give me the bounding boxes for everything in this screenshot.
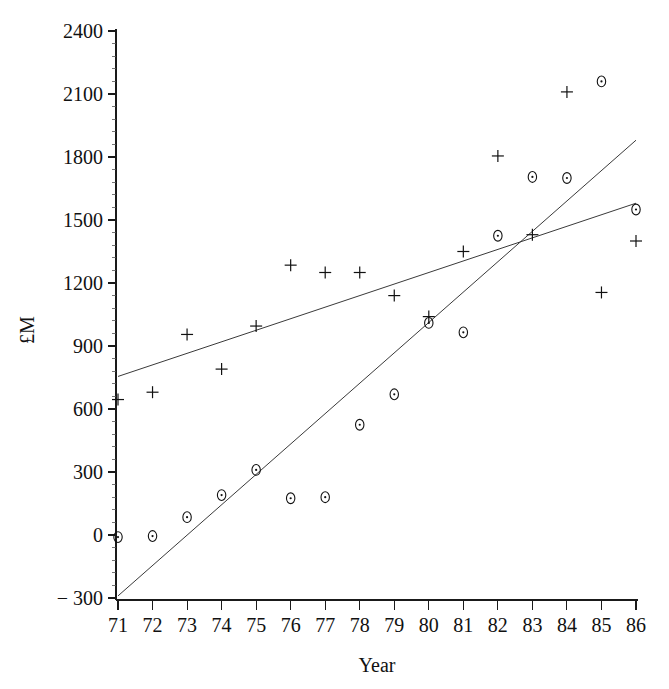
- marker-circle: [217, 490, 225, 501]
- y-tick-label: 900: [73, 335, 103, 357]
- chart-container: − 300030060090012001500180021002400 7172…: [0, 0, 669, 689]
- y-tick-label: 1200: [63, 272, 103, 294]
- marker-plus: [354, 267, 366, 279]
- marker-circle: [563, 173, 571, 184]
- marker-circle: [252, 465, 260, 476]
- marker-plus: [630, 235, 642, 247]
- marker-plus: [181, 328, 193, 340]
- y-axis-title: £M: [16, 316, 38, 344]
- marker-plus: [112, 394, 124, 406]
- x-tick-label: 77: [315, 614, 335, 636]
- x-axis-title: Year: [359, 654, 396, 676]
- circle-series-fit: [118, 140, 636, 596]
- x-tick-label: 85: [591, 614, 611, 636]
- marker-circle: [286, 493, 294, 504]
- marker-plus: [457, 246, 469, 258]
- marker-plus: [388, 290, 400, 302]
- y-tick-label: 0: [93, 524, 103, 546]
- marker-plus: [319, 267, 331, 279]
- x-tick-label: 76: [281, 614, 301, 636]
- x-tick-label: 86: [626, 614, 646, 636]
- x-tick-label: 78: [350, 614, 370, 636]
- regression-lines: [118, 140, 636, 596]
- marker-plus: [595, 286, 607, 298]
- marker-circle: [321, 492, 329, 503]
- marker-plus: [250, 320, 262, 332]
- x-tick-label: 84: [557, 614, 577, 636]
- marker-plus: [147, 386, 159, 398]
- scatter-plot: − 300030060090012001500180021002400 7172…: [0, 0, 669, 689]
- y-tick-label: 1800: [63, 146, 103, 168]
- marker-plus: [285, 259, 297, 271]
- marker-circle: [528, 172, 536, 183]
- y-axis: − 300030060090012001500180021002400: [57, 20, 116, 609]
- marker-circle: [632, 204, 640, 215]
- marker-circle: [148, 531, 156, 542]
- marker-plus: [492, 150, 504, 162]
- marker-circle: [597, 76, 605, 87]
- x-tick-label: 80: [419, 614, 439, 636]
- x-axis: 71727374757677787980818283848586: [108, 600, 646, 636]
- marker-circle: [114, 532, 122, 543]
- x-tick-label: 75: [246, 614, 266, 636]
- y-tick-label: 2400: [63, 20, 103, 42]
- x-tick-label: 73: [177, 614, 197, 636]
- x-tick-label: 82: [488, 614, 508, 636]
- y-tick-label: 600: [73, 398, 103, 420]
- x-tick-label: 81: [453, 614, 473, 636]
- marker-plus: [561, 86, 573, 98]
- marker-plus: [216, 363, 228, 375]
- y-tick-label: 2100: [63, 83, 103, 105]
- marker-circle: [356, 419, 364, 430]
- marker-circle: [459, 327, 467, 338]
- plus-series-fit: [118, 203, 636, 376]
- data-points: [112, 76, 642, 542]
- x-tick-label: 74: [212, 614, 232, 636]
- x-tick-label: 79: [384, 614, 404, 636]
- x-tick-label: 72: [143, 614, 163, 636]
- marker-circle: [390, 389, 398, 400]
- y-tick-label: 1500: [63, 209, 103, 231]
- x-tick-label: 83: [522, 614, 542, 636]
- marker-circle: [494, 230, 502, 241]
- x-tick-label: 71: [108, 614, 128, 636]
- y-tick-label: 300: [73, 461, 103, 483]
- y-tick-label: − 300: [57, 587, 103, 609]
- marker-circle: [183, 512, 191, 523]
